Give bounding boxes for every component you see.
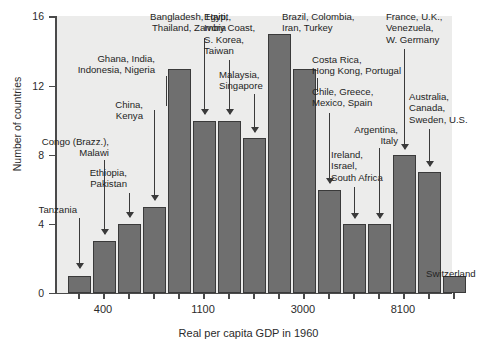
x-tick-mark-11 <box>328 293 330 299</box>
annotation-brazil-colombia: Brazil, Colombia, Iran, Turkey <box>282 11 398 34</box>
x-tick-mark-13 <box>378 293 380 299</box>
x-tick-label-8100: 8100 <box>373 303 433 315</box>
y-tick-mark-4 <box>49 224 55 226</box>
leader-australia-canada <box>429 129 430 166</box>
x-tick-label-1100: 1100 <box>173 303 233 315</box>
y-axis-title: Number of countries <box>11 59 23 189</box>
x-tick-mark-2 <box>103 293 105 299</box>
x-tick-label-400: 400 <box>73 303 133 315</box>
annotation-egypt-ivory: Egypt, Ivory Coast, S. Korea, Taiwan <box>204 11 284 57</box>
x-tick-mark-6 <box>203 293 205 299</box>
leader-ireland-israel <box>354 187 355 218</box>
annotation-switzerland: Switzerland <box>426 268 496 279</box>
x-tick-mark-14 <box>403 293 405 299</box>
x-tick-mark-16 <box>453 293 455 299</box>
y-tick-mark-16 <box>49 16 55 18</box>
x-tick-mark-4 <box>153 293 155 299</box>
annotation-congo-malawi: Congo (Brazz.), Malawi <box>17 136 109 159</box>
annotation-tanzania: Tanzania <box>9 204 77 215</box>
annotation-argentina-italy: Argentina, Italy <box>330 124 398 147</box>
y-tick-label-4: 4 <box>14 219 44 229</box>
y-tick-mark-12 <box>49 86 55 88</box>
y-tick-mark-0 <box>49 293 55 295</box>
x-tick-mark-7 <box>228 293 230 299</box>
bar-4 <box>143 207 166 293</box>
bar-2 <box>93 241 116 293</box>
annotation-ethiopia-pakistan: Ethiopia, Pakistan <box>57 167 127 190</box>
annotation-france-uk: France, U.K., Venezuela, W. Germany <box>386 11 476 45</box>
leader-ethiopia-pakistan <box>129 193 130 217</box>
x-tick-label-3000: 3000 <box>273 303 333 315</box>
bar-11 <box>318 190 341 294</box>
annotation-china-kenya: China, Kenya <box>88 99 143 122</box>
annotation-malaysia-singapore: Malaysia, Singapore <box>219 69 291 92</box>
x-tick-mark-12 <box>353 293 355 299</box>
leader-malaysia-singapore <box>254 94 255 132</box>
x-tick-mark-5 <box>178 293 180 299</box>
bar-8 <box>243 138 266 293</box>
leader-france-uk <box>404 49 405 149</box>
bar-13 <box>368 224 391 293</box>
leader-ghana-india <box>166 76 167 106</box>
x-axis-title: Real per capita GDP in 1960 <box>0 327 497 339</box>
annotation-chile-greece: Chile, Greece, Mexico, Spain <box>312 86 422 109</box>
x-tick-mark-10 <box>303 293 305 299</box>
leader-argentina-italy <box>379 148 380 218</box>
bar-6 <box>193 121 216 294</box>
y-tick-label-0: 0 <box>14 288 44 298</box>
bar-3 <box>118 224 141 293</box>
bar-7 <box>218 121 241 294</box>
leader-tanzania <box>79 218 80 268</box>
annotation-ghana-india: Ghana, India, Indonesia, Nigeria <box>33 53 155 76</box>
bar-1 <box>68 276 91 293</box>
y-tick-label-16: 16 <box>14 11 44 21</box>
x-tick-mark-8 <box>253 293 255 299</box>
chart-figure: 16 12 8 4 0 Number of countries 400 1100… <box>0 0 497 352</box>
x-tick-mark-1 <box>78 293 80 299</box>
x-tick-mark-15 <box>428 293 430 299</box>
annotation-ireland-israel: Ireland, Israel, South Africa <box>331 149 413 183</box>
bar-12 <box>343 224 366 293</box>
leader-china-kenya <box>154 110 155 200</box>
bar-5 <box>168 69 191 293</box>
x-tick-mark-9 <box>278 293 280 299</box>
annotation-australia-canada: Australia, Canada, Sweden, U.S. <box>409 91 495 125</box>
annotation-costa-rica: Costa Rica, Hong Kong, Portugal <box>312 54 442 77</box>
x-tick-mark-3 <box>128 293 130 299</box>
